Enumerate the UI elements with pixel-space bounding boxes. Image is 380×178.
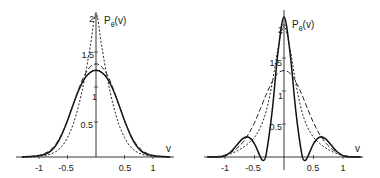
y-tick-label: 1.5 [81, 50, 94, 60]
x-tick-label: 1 [340, 163, 345, 173]
x-tick-label: -1 [221, 163, 229, 173]
left-panel: -1 -0.5 0.5 1 0.5 1 1.5 2 Pθ(v) v [16, 12, 174, 173]
x-axis-label: v [166, 143, 171, 154]
x-tick-label: 0.5 [119, 163, 132, 173]
y-tick-label: 1 [278, 91, 283, 101]
y-tick-label: 0.5 [80, 120, 93, 130]
x-tick-label: 1 [150, 163, 155, 173]
x-tick-label: -0.5 [245, 163, 261, 173]
y-axis-label: Pθ(v) [292, 19, 314, 32]
right-panel: -1 -0.5 0.5 1 0.5 1 1.5 2 Pθ(v) v [204, 10, 363, 173]
y-axis-label: Pθ(v) [104, 15, 126, 28]
x-axis-label: v [355, 143, 360, 154]
figure: -1 -0.5 0.5 1 0.5 1 1.5 2 Pθ(v) v -1 -0.… [0, 0, 380, 178]
x-tick-label: 0.5 [307, 163, 320, 173]
y-tick-label: 1 [92, 92, 97, 102]
x-tick-label: -1 [35, 163, 43, 173]
x-tick-label: -0.5 [58, 163, 74, 173]
